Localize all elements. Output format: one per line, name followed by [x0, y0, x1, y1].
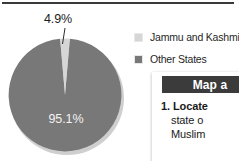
pie-chart-figure: 4.9% 95.1%	[0, 0, 132, 161]
panel-text-line-2: state o	[161, 113, 239, 127]
legend-swatch-icon-jammu-and-kashmir	[134, 33, 143, 42]
panel-text-line-3: Muslim	[161, 127, 239, 141]
legend-swatch-icon-other-states	[134, 55, 143, 64]
panel-text-line-1: 1. Locate	[161, 99, 239, 113]
pie-label-small-slice: 4.9%	[30, 12, 86, 26]
legend-label-other-states: Other States	[150, 53, 207, 65]
map-skills-panel: Map a 1. Locate state o Muslim	[152, 72, 239, 161]
chart-legend: Jammu and Kashmir Other States	[134, 28, 239, 72]
legend-item-jammu-and-kashmir: Jammu and Kashmir	[134, 28, 239, 46]
map-skills-panel-body: 1. Locate state o Muslim	[161, 99, 239, 141]
legend-item-other-states: Other States	[134, 50, 239, 68]
map-skills-panel-header: Map a	[162, 76, 239, 93]
legend-label-jammu-and-kashmir: Jammu and Kashmir	[150, 31, 239, 43]
map-skills-panel-title: Map a	[193, 78, 228, 92]
pie-label-large-slice: 95.1%	[20, 112, 112, 126]
